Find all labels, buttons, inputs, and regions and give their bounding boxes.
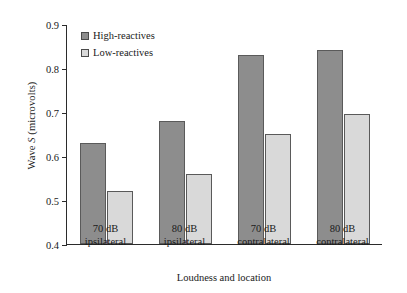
x-axis-category-label: 70 dBipsilateral bbox=[66, 222, 145, 248]
plot-area: 0.90.80.70.60.50.4 High-reactives Low-re… bbox=[66, 25, 382, 245]
y-axis-title: Wave S (microvolts) bbox=[26, 26, 37, 226]
x-axis-category-label: 80 dBipsilateral bbox=[145, 222, 224, 248]
y-axis-title-prefix: Wave bbox=[26, 143, 37, 170]
y-axis-tick-label: 0.8 bbox=[46, 63, 59, 77]
category-loudness: 70 dB bbox=[224, 222, 303, 235]
y-axis-tick-label: 0.7 bbox=[46, 107, 59, 121]
y-axis-tick-label: 0.4 bbox=[46, 239, 59, 253]
category-loudness: 80 dB bbox=[145, 222, 224, 235]
bar-group bbox=[80, 25, 133, 244]
y-axis-tick-label: 0.6 bbox=[46, 151, 59, 165]
category-location: contralateral bbox=[303, 235, 382, 248]
bar-series-container bbox=[67, 25, 382, 244]
x-axis-title: Loudness and location bbox=[66, 272, 382, 283]
x-axis-category-label: 80 dBcontralateral bbox=[303, 222, 382, 248]
bar-chart: Wave S (microvolts) 0.90.80.70.60.50.4 H… bbox=[0, 0, 407, 293]
category-location: ipsilateral bbox=[66, 235, 145, 248]
bar bbox=[238, 55, 264, 244]
y-axis-tick-label: 0.9 bbox=[46, 19, 59, 33]
y-axis-title-variable: S bbox=[26, 137, 37, 142]
y-axis-tick-label: 0.5 bbox=[46, 195, 59, 209]
y-axis-title-suffix: (microvolts) bbox=[26, 82, 37, 138]
category-loudness: 80 dB bbox=[303, 222, 382, 235]
bar-group bbox=[238, 25, 291, 244]
bar-group bbox=[317, 25, 370, 244]
x-axis-category-label: 70 dBcontralateral bbox=[224, 222, 303, 248]
bar bbox=[317, 50, 343, 244]
category-location: ipsilateral bbox=[145, 235, 224, 248]
category-loudness: 70 dB bbox=[66, 222, 145, 235]
category-location: contralateral bbox=[224, 235, 303, 248]
bar-group bbox=[159, 25, 212, 244]
